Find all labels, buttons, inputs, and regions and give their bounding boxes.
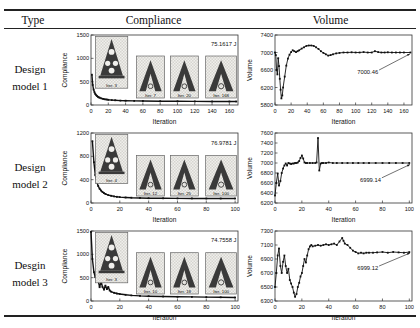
- y-tick-label: 6200: [261, 85, 273, 91]
- inset-iteration-label: Iter. 25: [178, 191, 192, 196]
- x-tick-label: 20: [105, 108, 111, 114]
- x-axis-label: Iteration: [153, 118, 177, 125]
- y-tick-label: 6900: [261, 256, 273, 262]
- x-tick-label: 60: [140, 108, 146, 114]
- x-tick-label: 100: [173, 108, 182, 114]
- x-tick-label: 80: [203, 304, 209, 310]
- y-tick-label: 7400: [261, 140, 273, 146]
- x-tick-label: 40: [304, 108, 310, 114]
- y-tick-label: 6500: [261, 284, 273, 290]
- topology-inset: Iter. 3: [95, 36, 127, 88]
- x-tick-label: 160: [225, 108, 234, 114]
- inset-iteration-label: Iter. 168: [213, 93, 229, 98]
- topology-inset: Iter. 18: [170, 253, 198, 294]
- annotation-leader: [379, 54, 410, 70]
- paper-table-figure: Type Compliance Volume Design model 1 02…: [0, 0, 420, 328]
- y-axis-label: Volume: [246, 59, 253, 81]
- y-tick-label: 6700: [261, 270, 273, 276]
- y-tick-label: 6300: [261, 298, 273, 304]
- final-value-annotation: 6999.14: [360, 177, 382, 183]
- x-tick-label: 80: [336, 108, 342, 114]
- x-tick-label: 40: [122, 108, 128, 114]
- x-tick-label: 0: [273, 206, 276, 212]
- x-tick-label: 100: [230, 304, 239, 310]
- inset-iteration-label: Iter. 12: [144, 191, 158, 196]
- x-tick-label: 0: [89, 304, 92, 310]
- inset-iteration-label: Iter. 18: [178, 289, 192, 294]
- table-bottom-rule: [4, 315, 416, 317]
- x-tick-label: 80: [157, 108, 163, 114]
- column-header-type: Type: [4, 14, 62, 26]
- x-tick-label: 140: [207, 108, 216, 114]
- x-tick-label: 100: [351, 108, 360, 114]
- y-tick-label: 1000: [77, 55, 89, 61]
- topology-inset: Iter. 100: [206, 155, 237, 196]
- inset-iteration-label: Iter. 3: [106, 277, 118, 282]
- x-tick-label: 60: [174, 304, 180, 310]
- x-tick-label: 20: [288, 108, 294, 114]
- y-tick-label: 1500: [77, 32, 89, 38]
- x-tick-label: 140: [383, 108, 392, 114]
- y-tick-label: 5800: [261, 102, 273, 108]
- y-tick-label: 500: [80, 79, 89, 85]
- x-tick-label: 40: [146, 304, 152, 310]
- y-tick-label: 6800: [261, 170, 273, 176]
- type-label-line2: model 1: [12, 78, 48, 95]
- x-tick-label: 40: [146, 206, 152, 212]
- x-tick-label: 0: [273, 304, 276, 310]
- y-tick-label: 1200: [77, 130, 89, 136]
- x-tick-label: 120: [190, 108, 199, 114]
- x-tick-label: 40: [326, 206, 332, 212]
- x-tick-label: 80: [203, 206, 209, 212]
- y-tick-label: 0: [86, 298, 89, 304]
- x-tick-label: 60: [320, 108, 326, 114]
- inset-iteration-label: Iter. 100: [213, 289, 229, 294]
- type-label-line1: Design: [14, 61, 45, 78]
- table-header-rule: [4, 28, 416, 29]
- inset-iteration-label: Iter. 20: [178, 93, 192, 98]
- x-tick-label: 0: [89, 206, 92, 212]
- table-header-row: Type Compliance Volume: [4, 11, 416, 28]
- y-axis-label: Compliance: [61, 248, 69, 283]
- data-line: [275, 238, 409, 297]
- inset-iteration-label: Iter. 100: [213, 191, 229, 196]
- row-type-label-2: Design model 2: [0, 128, 60, 224]
- y-axis-label: Volume: [246, 255, 253, 277]
- x-tick-label: 60: [352, 206, 358, 212]
- volume-chart-model1: 0204060801001201401605800620066007000740…: [245, 30, 420, 126]
- x-axis-label: Iteration: [153, 216, 177, 223]
- y-tick-label: 800: [80, 153, 89, 159]
- column-header-compliance: Compliance: [62, 14, 245, 26]
- inset-iteration-label: Iter. 4: [106, 178, 118, 183]
- x-tick-label: 100: [230, 206, 239, 212]
- y-tick-label: 6600: [261, 67, 273, 73]
- x-tick-label: 160: [399, 108, 408, 114]
- x-tick-label: 20: [117, 206, 123, 212]
- inset-iteration-label: Iter. 3: [106, 83, 118, 88]
- y-tick-label: 500: [80, 275, 89, 281]
- topology-inset: Iter. 12: [137, 155, 165, 196]
- y-tick-label: 7000: [261, 160, 273, 166]
- x-axis-label: Iteration: [332, 216, 356, 223]
- y-tick-label: 7400: [261, 32, 273, 38]
- compliance-chart-model1: 020406080100120140160050010001500Iterati…: [60, 30, 243, 126]
- plot-box: [275, 35, 412, 105]
- type-label-line1: Desgin: [14, 257, 45, 274]
- table-row-design-model-1: Design model 1 0204060801001201401600500…: [0, 30, 420, 126]
- final-value-annotation: 7000.46: [357, 69, 378, 75]
- volume-chart-model2: 0204060801006200640066006800700072007400…: [245, 128, 420, 224]
- y-axis-label: Compliance: [61, 150, 69, 185]
- x-axis-label: Iteration: [332, 118, 356, 125]
- inset-iteration-label: Iter. 10: [144, 289, 158, 294]
- column-header-volume: Volume: [245, 14, 416, 26]
- table-row-design-model-3: Desgin model 3 020406080100050010001500I…: [0, 226, 420, 322]
- annotation-leader: [379, 253, 410, 266]
- y-tick-label: 6400: [261, 190, 273, 196]
- final-value-annotation: 74.7558 J: [211, 237, 237, 243]
- topology-inset: Iter. 20: [170, 56, 198, 98]
- x-tick-label: 60: [352, 304, 358, 310]
- y-tick-label: 7600: [261, 130, 273, 136]
- x-tick-label: 80: [379, 206, 385, 212]
- x-tick-label: 20: [299, 206, 305, 212]
- y-tick-label: 1000: [77, 251, 89, 257]
